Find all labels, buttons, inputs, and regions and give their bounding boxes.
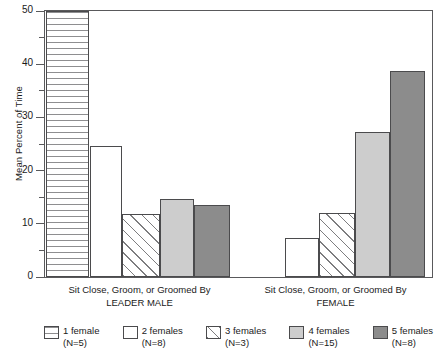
legend-series-name: 4 females [308,325,349,336]
legend-series-n: (N=5) [63,337,99,349]
legend-label-4-females: 4 females (N=15) [308,325,349,349]
bar-leader-male-1-female [46,11,89,277]
legend-swatch-dark-gray-icon [373,326,388,339]
y-tick-mark [36,223,44,224]
legend-series-n: (N=15) [308,337,349,349]
bar-leader-male-5-females [194,205,230,277]
y-tick-label: 10 [9,217,33,228]
legend-item-1-female: 1 female (N=5) [44,325,99,349]
x-axis-group-label-female: Sit Close, Groom, or Groomed By FEMALE [238,284,433,309]
legend-label-5-females: 5 females (N=8) [392,325,433,349]
bar-female-2-females [285,238,319,277]
legend-series-n: (N=8) [392,337,433,349]
legend-label-2-females: 2 females (N=8) [142,325,183,349]
legend-label-3-females: 3 females (N=3) [225,325,266,349]
legend: 1 female (N=5) 2 females (N=8) 3 females… [44,325,433,353]
legend-item-5-females: 5 females (N=8) [373,325,433,349]
bar-female-3-females [319,213,355,277]
y-tick-label: 40 [9,57,33,68]
group-label-line1: Sit Close, Groom, or Groomed By [264,284,406,295]
y-tick-mark [36,11,44,12]
bar-leader-male-4-females [160,199,194,277]
group-label-line1: Sit Close, Groom, or Groomed By [68,284,210,295]
y-tick-mark [36,117,44,118]
legend-swatch-light-gray-icon [289,326,304,339]
y-tick-label: 0 [9,270,33,281]
bar-chart: Mean Percent of Time 0 10 20 30 40 50 [0,0,437,355]
legend-series-n: (N=8) [142,337,183,349]
bar-female-4-females [355,132,390,277]
bar-female-5-females [390,71,425,277]
legend-item-3-females: 3 females (N=3) [206,325,266,349]
y-tick-mark [36,277,44,278]
legend-swatch-horizontal-lines-icon [44,326,59,339]
y-axis-title: Mean Percent of Time [13,54,24,214]
legend-swatch-diagonal-lines-icon [206,326,221,339]
legend-series-name: 2 females [142,325,183,336]
legend-item-2-females: 2 females (N=8) [123,325,183,349]
group-label-line2: LEADER MALE [42,297,237,310]
legend-series-n: (N=3) [225,337,266,349]
legend-label-1-female: 1 female (N=5) [63,325,99,349]
y-tick-mark [36,170,44,171]
y-tick-label: 30 [9,110,33,121]
legend-series-name: 1 female [63,325,99,336]
y-tick-mark [36,64,44,65]
legend-swatch-white-icon [123,326,138,339]
legend-series-name: 3 females [225,325,266,336]
x-axis-group-label-leader-male: Sit Close, Groom, or Groomed By LEADER M… [42,284,237,309]
bar-leader-male-3-females [122,214,160,277]
legend-series-name: 5 females [392,325,433,336]
group-label-line2: FEMALE [238,297,433,310]
plot-area [44,10,433,278]
y-tick-label: 20 [9,164,33,175]
legend-item-4-females: 4 females (N=15) [289,325,349,349]
y-tick-label: 50 [9,4,33,15]
bar-leader-male-2-females [90,146,122,277]
